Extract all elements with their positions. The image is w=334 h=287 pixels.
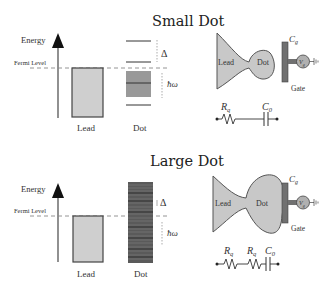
lead-label: Lead (77, 123, 95, 133)
resistor-icon (217, 259, 266, 269)
small-dot-panel: Small Dot Energy Fermi Level Lead Dot Δ … (14, 13, 318, 133)
svg-text:C0: C0 (262, 101, 273, 113)
device-sketch: Lead Dot Vg Cg Gate (217, 33, 318, 93)
rq-label-2: R (246, 245, 253, 256)
resistor-icon (217, 114, 235, 124)
gate-label: Gate (291, 224, 306, 233)
device-dot-label: Dot (256, 199, 269, 208)
energy-axis: Energy Fermi Level (14, 183, 64, 262)
large-dot-panel: Large Dot Energy Fermi Level Lead (14, 153, 318, 279)
svg-text:Rq: Rq (223, 245, 234, 257)
device-sketch: Lead Dot Vg Cg Gate (213, 174, 318, 233)
energy-label: Energy (21, 35, 46, 45)
rq-label: R (223, 245, 230, 256)
hbar-omega-label: ħω (167, 228, 178, 238)
device-lead-label: Lead (218, 58, 234, 67)
gate-label: Gate (291, 84, 306, 93)
broadened-level (126, 71, 151, 97)
gate-plate (282, 42, 288, 82)
arrow-up-icon (52, 33, 64, 48)
panel-title: Large Dot (150, 153, 224, 169)
equivalent-circuit: Rq C0 (216, 101, 279, 126)
arrow-up-icon (52, 183, 64, 198)
energy-label: Energy (21, 184, 46, 194)
delta-label: Δ (161, 48, 168, 59)
dot-label: Dot (134, 269, 148, 279)
svg-text:C0: C0 (265, 245, 276, 257)
rq-label: R (220, 101, 227, 112)
gate-plate (282, 183, 288, 223)
panel-title: Small Dot (152, 13, 225, 29)
fermi-level-label: Fermi Level (14, 59, 46, 66)
delta-label: Δ (160, 197, 167, 208)
device-lead-label: Lead (215, 199, 231, 208)
fermi-level-label: Fermi Level (14, 207, 46, 214)
svg-text:Rq: Rq (246, 245, 257, 257)
energy-axis: Energy Fermi Level (14, 33, 64, 118)
svg-text:Cg: Cg (289, 34, 298, 45)
svg-text:Cg: Cg (289, 174, 298, 185)
lead-band (72, 68, 103, 117)
dense-dot-levels (128, 182, 153, 263)
device-dot-label: Dot (257, 58, 270, 67)
dot-levels (126, 41, 151, 105)
quantum-dot-diagram: Small Dot Energy Fermi Level Lead Dot Δ … (0, 0, 334, 287)
lead-band (73, 216, 103, 262)
hbar-omega-label: ħω (167, 79, 178, 89)
dot-label: Dot (133, 123, 147, 133)
equivalent-circuit: Rq Rq C0 (216, 245, 280, 271)
lead-label: Lead (77, 269, 95, 279)
svg-text:Rq: Rq (220, 101, 231, 113)
